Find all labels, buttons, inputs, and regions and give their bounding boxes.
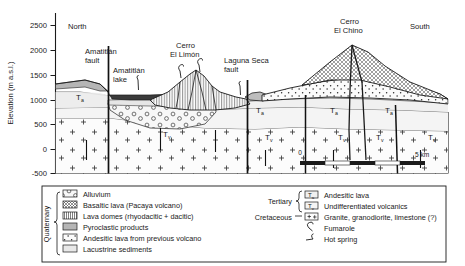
legend-item-ta: Ta Andesitic lava [305,191,370,200]
legend-label-granite: Granite, granodiorite, limestone (?) [324,213,437,222]
fumarole-icon [307,222,313,231]
legend-label-ta: Andesitic lava [324,191,370,200]
hot-spring-icon-laguna [239,81,241,95]
unit-lava-dome-limon [150,70,250,110]
legend-label-hot-spring: Hot spring [324,235,357,244]
scale-end-label: 5 km [415,151,430,158]
unit-pyroclastic-left [56,80,109,91]
legend-category-quaternary: Quaternary [42,205,51,242]
orientation-south: South [410,22,430,31]
orientation-north: North [68,22,87,31]
y-axis-title: Elevation (m a.s.l.) [6,61,15,124]
legend-item-fumarole: Fumarole [307,222,354,233]
label-amatitlan-lake-1: Amatitlán [113,66,145,75]
legend-item-alluvium: Alluvium [63,190,111,199]
y-axis-ticks [51,26,56,174]
cross-section-svg: 2500 2000 1500 1000 500 0 -500 Elevation… [0,0,465,266]
legend-label-lava-domes: Lava domes (rhyodacitic + dacitic) [83,212,194,221]
legend-label-tv: Undifferentiated volcanics [324,202,408,211]
legend-item-andesitic-previous: Andesitic lava from previous volcano [63,234,201,243]
swatch-alluvium [63,190,77,197]
label-cerro-el-chino-1: Cerro [340,17,359,26]
y-tick-1000: 1000 [30,96,47,105]
swatch-pyroclastic [63,223,77,230]
legend-category-tertiary: Tertiary [268,197,292,206]
scale-start-label: 0 [298,149,302,156]
legend-label-alluvium: Alluvium [83,190,111,199]
legend-label-andesitic-previous: Andesitic lava from previous volcano [83,234,201,243]
label-laguna-seca-fault-2: fault [224,65,239,74]
swatch-lava-domes [63,212,77,219]
legend-item-lacustrine: Lacustrine sediments [63,245,152,254]
tertiary-bracket [296,191,302,212]
hot-spring-icon-lake [137,75,139,90]
y-tick-0: 0 [43,145,47,154]
label-cerro-el-limon-2: El Limón [170,50,200,59]
y-tick-2000: 2000 [30,46,47,55]
legend-item-tv: Tv Undifferentiated volcanics [305,202,408,211]
legend-item-lava-domes: Lava domes (rhyodacitic + dacitic) [63,212,194,221]
y-tick-1500: 1500 [30,71,47,80]
legend-label-lacustrine: Lacustrine sediments [83,245,152,254]
label-cerro-el-chino-2: El Chino [334,26,363,35]
label-amatitlan-fault-1: Amatitlán [85,47,117,56]
swatch-granite [305,213,318,220]
swatch-andesitic-previous [63,234,77,241]
legend-label-basaltic: Basaltic lava (Pacaya volcano) [83,201,182,210]
legend-item-hot-spring: Hot spring [306,234,357,244]
swatch-basaltic-lava [63,201,77,208]
quaternary-bracket [54,192,60,255]
legend-item-granite: Granite, granodiorite, limestone (?) [305,213,437,222]
swatch-lacustrine [63,245,77,252]
label-amatitlan-fault-2: fault [85,56,100,65]
fumarole-icon-limon-left [179,65,184,79]
fumarole-icon-limon-right [198,59,203,73]
label-laguna-seca-fault-1: Laguna Seca [224,56,270,65]
figure-root: 2500 2000 1500 1000 500 0 -500 Elevation… [0,0,465,266]
y-axis: 2500 2000 1500 1000 500 0 -500 Elevation… [6,13,56,178]
hot-spring-icon [306,234,314,240]
legend-item-pyroclastic: Pyroclastic products [63,223,149,232]
label-cerro-el-limon-1: Cerro [176,41,195,50]
legend-item-basaltic: Basaltic lava (Pacaya volcano) [63,201,182,210]
y-tick-500: 500 [34,120,47,129]
y-tick-2500: 2500 [30,21,47,30]
legend-label-fumarole: Fumarole [324,224,355,233]
y-tick-neg500: -500 [32,169,47,178]
legend-category-cretaceous: Cretaceous [255,213,293,222]
legend-label-pyroclastic: Pyroclastic products [83,223,149,232]
label-amatitlan-lake-2: lake [113,75,127,84]
